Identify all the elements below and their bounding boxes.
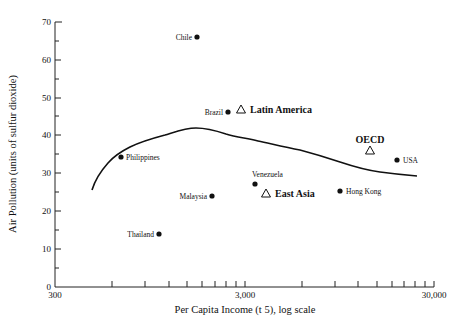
x-tick-30000: 30,000 [422,290,447,300]
point-chile [194,34,199,39]
point-hong-kong [337,188,342,193]
x-tick-3000: 3,000 [235,290,256,300]
x-axis-title: Per Capita Income (t 5), log scale [175,304,316,316]
label-thailand: Thailand [127,230,154,239]
y-axis [55,22,62,287]
label-east-asia: East Asia [275,188,315,199]
label-usa: USA [403,156,419,165]
x-tick-300: 300 [48,290,62,300]
region-points: Latin America East Asia OECD [237,104,385,199]
label-chile: Chile [176,33,193,42]
triangle-oecd-icon [366,146,375,154]
y-tick-40: 40 [42,130,52,140]
y-tick-20: 20 [42,206,52,216]
label-latin-america: Latin America [250,104,312,115]
y-tick-labels: 0 10 20 30 40 50 60 70 [42,17,52,292]
point-usa [394,157,399,162]
label-oecd: OECD [356,134,385,145]
label-malaysia: Malaysia [180,192,208,201]
x-axis [55,281,434,287]
y-tick-50: 50 [42,93,52,103]
label-brazil: Brazil [205,108,223,117]
label-philippines: Philippines [126,153,160,162]
label-hong-kong: Hong Kong [346,187,381,196]
point-venezuela [252,181,257,186]
y-tick-70: 70 [42,17,52,27]
chart-canvas: 0 10 20 30 40 50 60 70 Air Pollution (un… [0,0,467,330]
point-malaysia [209,193,214,198]
point-brazil [225,109,230,114]
triangle-latin-america-icon [237,105,246,113]
triangle-east-asia-icon [262,189,271,197]
point-thailand [156,231,161,236]
y-tick-30: 30 [42,168,52,178]
x-tick-labels: 300 3,000 30,000 [48,290,447,300]
y-axis-title: Air Pollution (units of sulfur dioxide) [7,75,19,233]
label-venezuela: Venezuela [252,170,283,179]
point-philippines [118,154,123,159]
y-tick-10: 10 [42,244,52,254]
y-tick-60: 60 [42,55,52,65]
